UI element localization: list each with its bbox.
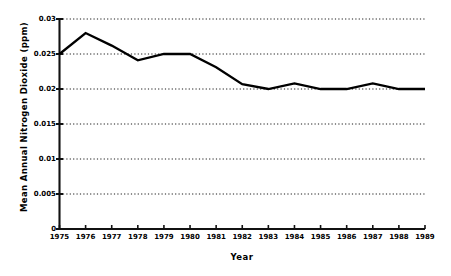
x-tick-label: 1989 xyxy=(408,233,442,242)
x-axis-title: Year xyxy=(59,252,425,262)
x-axis-tick-labels: 1975197619771978197919801981198219831984… xyxy=(0,0,451,276)
line-chart: Mean Annual Nitrogen Dioxide (ppm) 00.00… xyxy=(0,0,451,276)
